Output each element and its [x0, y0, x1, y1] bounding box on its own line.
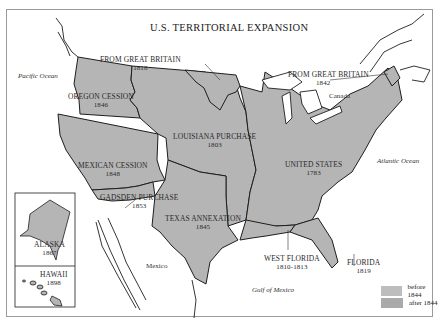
label-west-florida: WEST FLORIDA1810-1813: [264, 254, 320, 272]
label-mexican-cession: MEXICAN CESSION1848: [78, 161, 148, 179]
label-atlantic-ocean: Atlantic Ocean: [377, 157, 419, 165]
baja-outline: [96, 218, 146, 310]
label-alaska: ALASKA1867: [34, 240, 65, 258]
legend-item-after-1844: after 1844: [381, 297, 439, 308]
label-louisiana-purchase: LOUISIANA PURCHASE1803: [173, 132, 256, 150]
legend-swatch-after-1844: [381, 298, 403, 308]
legend-item-before-1844: before 1844: [381, 285, 439, 296]
label-from-great-britain-1818: FROM GREAT BRITAIN1818: [100, 55, 181, 73]
legend-swatch-before-1844: [381, 286, 402, 296]
label-gulf-of-mexico: Gulf of Mexico: [252, 286, 294, 294]
label-florida: FLORIDA1819: [347, 258, 380, 276]
label-united-states: UNITED STATES1783: [285, 160, 342, 178]
map-title: U.S. TERRITORIAL EXPANSION: [150, 22, 308, 33]
label-hawaii: HAWAII1898: [40, 270, 68, 288]
label-pacific-ocean: Pacific Ocean: [18, 72, 58, 80]
label-oregon-cession: OREGON CESSION1846: [68, 92, 134, 110]
legend: before 1844 after 1844: [381, 285, 439, 309]
label-gadsden-purchase: GADSDEN PURCHASE1853: [100, 193, 179, 211]
region-united-states: [240, 68, 402, 230]
label-from-great-britain-1842: FROM GREAT BRITAIN1842: [288, 70, 369, 88]
label-mexico: Mexico: [146, 262, 167, 270]
label-texas-annexation: TEXAS ANNEXATION1845: [165, 214, 241, 232]
mexico-coast-outline: [192, 280, 196, 318]
label-canada: Canada: [329, 92, 350, 100]
puget-sound-outline: [56, 18, 78, 57]
